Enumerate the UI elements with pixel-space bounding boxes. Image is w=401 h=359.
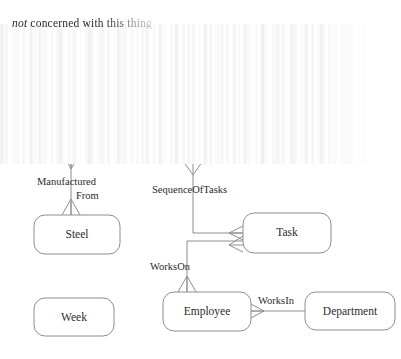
caption-text: not concerned with this thing (12, 17, 152, 29)
relationship-label-manufactured-from-line1: Manufactured (37, 176, 96, 187)
obscured-entity-box-middle (175, 40, 243, 160)
obscured-entity-box-right (290, 40, 368, 158)
relationship-label-sequence-of-tasks: SequenceOfTasks (152, 184, 227, 195)
entity-label-steel: Steel (34, 228, 120, 240)
relationship-label-works-in: WorksIn (258, 295, 294, 306)
entity-label-department: Department (305, 305, 395, 317)
entity-label-employee: Employee (163, 305, 251, 317)
relationship-works-on (178, 276, 196, 292)
works-in-crowsfoot (251, 304, 264, 318)
obscured-entity-box-left (22, 40, 114, 156)
relationship-works-in (251, 304, 305, 318)
diagram-page: not concerned with this thing (0, 0, 401, 359)
works-on-line (187, 241, 243, 292)
task-connectors (187, 226, 243, 292)
manufactured-from-crowsfoot-bottom (62, 199, 80, 215)
relationship-label-manufactured-from-line2: From (76, 190, 99, 201)
caption-italic-word: not (12, 17, 27, 29)
relationship-label-works-on: WorksOn (150, 261, 190, 272)
caption-rest: concerned with this thing (27, 17, 152, 29)
entity-label-task: Task (243, 226, 331, 238)
obscured-entity-boxes (22, 40, 368, 160)
entity-label-week: Week (34, 311, 114, 323)
works-on-crowsfoot (178, 276, 196, 292)
